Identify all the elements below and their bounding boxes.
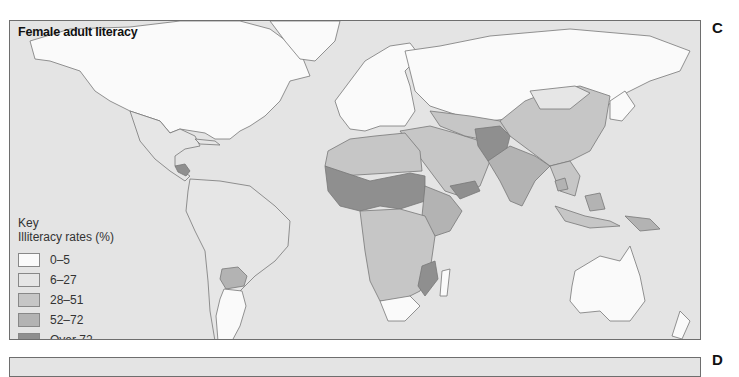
legend-label: 0–5 bbox=[50, 253, 70, 267]
legend-label: 28–51 bbox=[50, 293, 83, 307]
next-map-panel bbox=[9, 357, 701, 377]
panel-letter-d: D bbox=[712, 351, 723, 368]
new-zealand-region bbox=[672, 311, 690, 339]
map-title: Female adult literacy bbox=[18, 25, 137, 39]
swatch-28-51 bbox=[18, 293, 40, 307]
south-africa-region bbox=[380, 296, 420, 321]
madagascar-region bbox=[440, 269, 450, 296]
legend-item-28-51: 28–51 bbox=[18, 290, 114, 310]
legend-subheading: Illiteracy rates (%) bbox=[18, 230, 114, 245]
borneo-region bbox=[585, 193, 605, 211]
panel-letter-c: C bbox=[712, 19, 723, 36]
indonesia-region bbox=[555, 206, 620, 228]
papua-region bbox=[625, 216, 660, 231]
swatch-over-72 bbox=[18, 333, 40, 340]
legend-item-over-72: Over 72 bbox=[18, 330, 114, 340]
swatch-6-27 bbox=[18, 273, 40, 287]
legend-item-52-72: 52–72 bbox=[18, 310, 114, 330]
legend-item-6-27: 6–27 bbox=[18, 270, 114, 290]
swatch-52-72 bbox=[18, 313, 40, 327]
north-africa-region bbox=[325, 133, 422, 176]
female-literacy-map-panel: Female adult literacy bbox=[9, 20, 701, 340]
legend-label: Over 72 bbox=[50, 333, 93, 340]
swatch-0-5 bbox=[18, 253, 40, 267]
map-legend: Key Illiteracy rates (%) 0–5 6–27 28–51 … bbox=[18, 216, 114, 340]
legend-label: 6–27 bbox=[50, 273, 77, 287]
legend-heading: Key bbox=[18, 216, 114, 230]
legend-label: 52–72 bbox=[50, 313, 83, 327]
australia-region bbox=[570, 246, 645, 321]
legend-item-0-5: 0–5 bbox=[18, 250, 114, 270]
